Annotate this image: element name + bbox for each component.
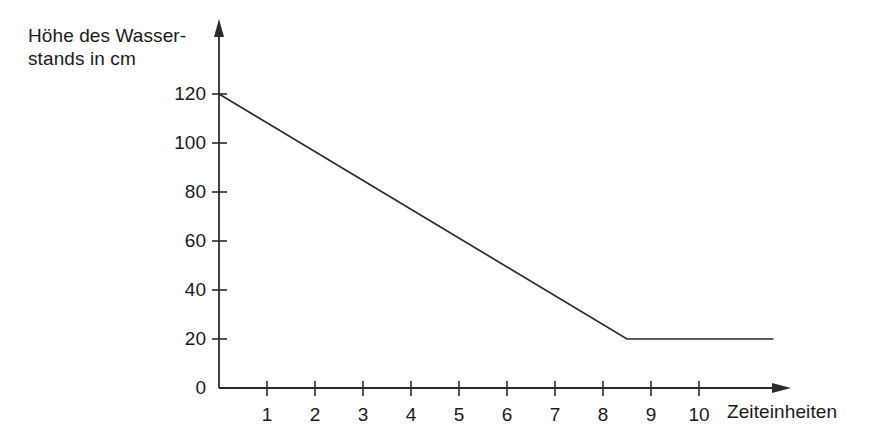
y-tick-label-0: 0: [158, 377, 206, 399]
y-tick-label-100: 100: [158, 132, 206, 154]
x-tick-label-1: 1: [262, 404, 273, 426]
y-tick-label-40: 40: [158, 279, 206, 301]
axes-group: [214, 19, 791, 393]
x-tick-label-6: 6: [502, 404, 513, 426]
y-axis-arrowhead: [214, 19, 224, 37]
y-tick-label-80: 80: [158, 181, 206, 203]
plot-area: [0, 0, 883, 438]
y-tick-label-60: 60: [158, 230, 206, 252]
x-axis-arrowhead: [772, 383, 791, 393]
x-tick-label-10: 10: [688, 404, 709, 426]
y-tick-label-120: 120: [158, 83, 206, 105]
x-tick-label-2: 2: [310, 404, 321, 426]
x-tick-label-4: 4: [406, 404, 417, 426]
chart-figure: Höhe des Wasser-stands in cm Zeiteinheit…: [0, 0, 883, 438]
y-tick-label-20: 20: [158, 328, 206, 350]
x-tick-label-3: 3: [358, 404, 369, 426]
water-level-line: [219, 94, 773, 339]
x-tick-label-7: 7: [550, 404, 561, 426]
x-tick-label-8: 8: [598, 404, 609, 426]
x-tick-label-5: 5: [454, 404, 465, 426]
x-tick-label-9: 9: [646, 404, 657, 426]
